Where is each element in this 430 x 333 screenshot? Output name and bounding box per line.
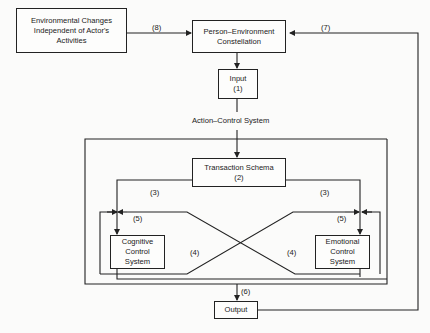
emotional-line2: Control — [330, 247, 354, 257]
input-node: Input (1) — [218, 69, 258, 99]
transaction-line1: Transaction Schema — [204, 163, 273, 173]
cognitive-control-node: Cognitive Control System — [110, 235, 165, 269]
edge-label-3-left: (3) — [150, 188, 159, 198]
emotional-line1: Emotional — [326, 237, 360, 247]
output-node: Output — [214, 301, 258, 319]
transaction-schema-node: Transaction Schema (2) — [192, 158, 286, 187]
emotional-control-node: Emotional Control System — [315, 235, 370, 269]
action-control-diagram: Environmental Changes Independent of Act… — [0, 0, 430, 333]
edge-label-4-left: (4) — [190, 248, 199, 258]
environmental-changes-line2: Independent of Actor's — [34, 26, 109, 36]
person-environment-line1: Person–Environment — [204, 27, 275, 37]
environmental-changes-line3: Activities — [57, 36, 87, 46]
environmental-changes-line1: Environmental Changes — [31, 16, 112, 26]
edge-label-4-right: (4) — [287, 248, 296, 258]
input-line1: Input — [230, 74, 247, 84]
cognitive-line1: Cognitive — [122, 237, 154, 247]
environmental-changes-node: Environmental Changes Independent of Act… — [16, 8, 127, 53]
output-line1: Output — [225, 305, 248, 315]
input-line2: (1) — [233, 84, 242, 94]
edge-label-5-left: (5) — [133, 214, 142, 224]
edge-label-3-right: (3) — [320, 188, 329, 198]
action-control-system-label: Action–Control System — [192, 116, 269, 126]
edge-label-5-right: (5) — [337, 214, 346, 224]
cognitive-line2: Control — [125, 247, 149, 257]
edge-label-8: (8) — [152, 23, 161, 33]
edge-label-6: (6) — [241, 287, 250, 297]
cognitive-line3: System — [125, 257, 150, 267]
transaction-line2: (2) — [234, 173, 243, 183]
edge-label-7: (7) — [321, 23, 330, 33]
emotional-line3: System — [330, 257, 355, 267]
person-environment-node: Person–Environment Constellation — [192, 20, 286, 53]
person-environment-line2: Constellation — [217, 37, 261, 47]
